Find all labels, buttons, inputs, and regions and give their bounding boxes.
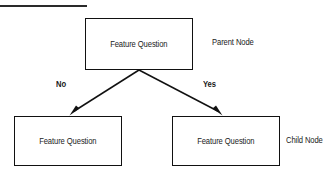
top-horizontal-rule — [0, 5, 87, 7]
edge-yes-line — [139, 70, 219, 112]
edge-label-no: No — [56, 80, 66, 89]
annotation-child-node: Child Node — [286, 136, 323, 145]
edge-yes-arrowhead — [213, 106, 223, 116]
annotation-parent-node: Parent Node — [212, 38, 254, 47]
node-child-left-label: Feature Question — [39, 137, 96, 146]
edge-label-yes: Yes — [203, 80, 216, 89]
node-parent-label: Feature Question — [110, 40, 167, 49]
diagram-canvas: Feature Question Feature Question Featur… — [0, 0, 335, 174]
edge-no-arrowhead — [70, 106, 80, 116]
node-child-right-label: Feature Question — [197, 137, 254, 146]
node-child-right[interactable]: Feature Question — [172, 116, 280, 166]
node-parent[interactable]: Feature Question — [85, 18, 193, 70]
edge-no-line — [74, 70, 140, 112]
node-child-left[interactable]: Feature Question — [14, 116, 122, 166]
